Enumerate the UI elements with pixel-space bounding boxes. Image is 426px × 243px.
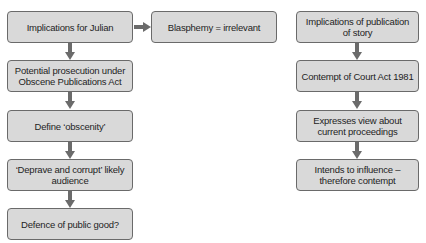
node-intends-to-influence: Intends to influence – therefore contemp… (296, 159, 419, 191)
node-blasphemy-irrelevant: Blasphemy = irrelevant (151, 11, 277, 43)
node-label: Defence of public good? (21, 219, 119, 230)
node-label: Implications for Julian (27, 22, 114, 33)
node-deprave-and-corrupt: ‘Deprave and corrupt’ likely audience (7, 159, 133, 191)
node-label: Intends to influence – therefore contemp… (301, 164, 414, 186)
node-label: Expresses view about current proceedings (301, 115, 414, 137)
arrow-down-icon (352, 43, 362, 61)
node-label: Define ‘obscenity’ (35, 121, 106, 132)
node-implications-for-julian: Implications for Julian (7, 11, 133, 43)
node-label: Potential prosecution under Obscene Publ… (12, 65, 128, 87)
node-implications-of-publication: Implications of publication of story (296, 11, 419, 43)
node-expresses-view: Expresses view about current proceedings (296, 110, 419, 142)
arrow-down-icon (65, 92, 75, 110)
node-potential-prosecution: Potential prosecution under Obscene Publ… (7, 60, 133, 92)
arrow-down-icon (65, 191, 75, 209)
node-label: Implications of publication of story (301, 16, 414, 38)
node-define-obscenity: Define ‘obscenity’ (7, 110, 133, 142)
arrow-right-icon (134, 22, 152, 32)
arrow-down-icon (352, 92, 362, 110)
arrow-down-icon (65, 43, 75, 61)
arrow-down-icon (65, 142, 75, 160)
node-label: ‘Deprave and corrupt’ likely audience (12, 164, 128, 186)
node-defence-of-public-good: Defence of public good? (7, 208, 133, 240)
arrow-down-icon (352, 142, 362, 160)
node-label: Contempt of Court Act 1981 (301, 71, 413, 82)
node-label: Blasphemy = irrelevant (168, 22, 261, 33)
node-contempt-of-court-act: Contempt of Court Act 1981 (296, 60, 419, 92)
